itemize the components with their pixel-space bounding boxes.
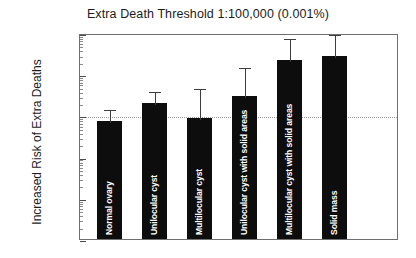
y-tick-minor: [80, 206, 83, 207]
y-tick-minor: [80, 163, 83, 164]
y-tick-minor: [80, 85, 83, 86]
bar-label-2: Multilocular cyst: [194, 169, 204, 235]
y-tick-minor: [80, 124, 83, 125]
y-tick-minor: [80, 51, 83, 52]
bar-label-3: Unilocular cyst with solid areas: [239, 110, 249, 235]
y-tick-minor: [80, 180, 83, 181]
y-tick-minor: [80, 47, 83, 48]
y-tick-minor: [80, 83, 83, 84]
y-tick-minor: [80, 93, 83, 94]
error-bar-stem-2: [200, 89, 201, 120]
y-tick-minor: [80, 130, 83, 131]
y-tick-minor: [80, 216, 83, 217]
y-tick-minor: [80, 39, 83, 40]
y-tick-major: [80, 241, 86, 242]
y-tick-minor: [80, 221, 83, 222]
bar-label-0: Normal ovary: [104, 181, 114, 235]
y-tick-minor: [80, 89, 83, 90]
y-tick-minor: [80, 105, 83, 106]
y-tick-minor: [80, 127, 83, 128]
y-tick-minor: [80, 171, 83, 172]
y-tick-minor: [80, 229, 83, 230]
bar-3: Unilocular cyst with solid areas: [232, 96, 257, 239]
error-bar-cap-3: [239, 68, 251, 69]
y-tick-major: [80, 117, 86, 118]
bar-5: Solid mass: [322, 56, 347, 239]
bar-4: Multilocular cyst with solid areas: [277, 60, 302, 239]
error-bar-cap-1: [149, 92, 161, 93]
y-tick-minor: [80, 98, 83, 99]
bar-1: Unilocular cyst: [142, 103, 167, 239]
error-bar-stem-0: [110, 110, 111, 122]
y-tick-minor: [80, 202, 83, 203]
bar-label-4: Multilocular cyst with solid areas: [284, 104, 294, 235]
error-bar-cap-2: [194, 89, 206, 90]
error-bar-stem-3: [245, 68, 246, 98]
y-tick-minor: [80, 160, 83, 161]
y-tick-major: [80, 159, 86, 160]
error-bar-stem-5: [335, 35, 336, 58]
y-tick-minor: [80, 209, 83, 210]
plot-area: 1000010001001010.1 Normal ovaryUnilocula…: [79, 34, 398, 240]
error-bar-stem-1: [155, 92, 156, 105]
error-bar-cap-4: [284, 39, 296, 40]
y-tick-minor: [80, 78, 83, 79]
y-tick-minor: [80, 119, 83, 120]
bar-2: Multilocular cyst: [187, 118, 212, 239]
y-tick-minor: [80, 41, 83, 42]
y-tick-major: [80, 35, 86, 36]
y-tick-minor: [80, 80, 83, 81]
y-tick-minor: [80, 134, 83, 135]
bar-label-5: Solid mass: [329, 191, 339, 235]
y-tick-minor: [80, 57, 83, 58]
bar-label-1: Unilocular cyst: [149, 175, 159, 235]
error-bar-cap-5: [329, 35, 341, 36]
y-tick-minor: [80, 165, 83, 166]
y-tick-major: [80, 76, 86, 77]
y-tick-minor: [80, 37, 83, 38]
error-bar-stem-4: [290, 39, 291, 62]
y-tick-minor: [80, 139, 83, 140]
bar-0: Normal ovary: [97, 121, 122, 239]
y-tick-minor: [80, 204, 83, 205]
y-tick-minor: [80, 168, 83, 169]
y-tick-minor: [80, 44, 83, 45]
y-tick-minor: [80, 121, 83, 122]
y-tick-minor: [80, 212, 83, 213]
y-tick-minor: [80, 175, 83, 176]
y-tick-minor: [80, 187, 83, 188]
chart-figure: Extra Death Threshold 1:100,000 (0.001%)…: [0, 0, 416, 258]
y-tick-major: [80, 200, 86, 201]
error-bar-cap-0: [104, 110, 116, 111]
y-axis-title: Increased Risk of Extra Deaths: [30, 42, 44, 242]
chart-title: Extra Death Threshold 1:100,000 (0.001%): [0, 7, 416, 21]
y-tick-minor: [80, 64, 83, 65]
y-tick-minor: [80, 146, 83, 147]
